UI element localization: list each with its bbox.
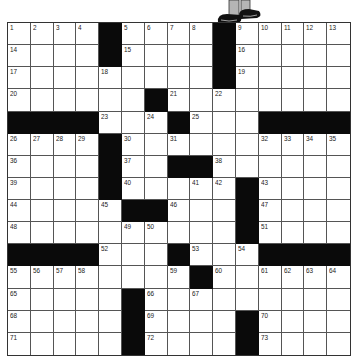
crossword-cell[interactable] [122, 112, 145, 134]
crossword-cell[interactable] [259, 156, 282, 178]
crossword-cell[interactable]: 35 [327, 134, 350, 156]
crossword-cell[interactable] [236, 289, 259, 311]
crossword-cell[interactable] [190, 45, 213, 67]
crossword-cell[interactable]: 47 [259, 200, 282, 222]
crossword-cell[interactable] [76, 156, 99, 178]
crossword-cell[interactable]: 34 [304, 134, 327, 156]
crossword-cell[interactable] [190, 222, 213, 244]
crossword-cell[interactable] [213, 112, 236, 134]
crossword-cell[interactable] [31, 67, 54, 89]
crossword-cell[interactable]: 5 [122, 23, 145, 45]
crossword-cell[interactable] [304, 156, 327, 178]
crossword-cell[interactable]: 22 [213, 89, 236, 111]
crossword-cell[interactable] [31, 156, 54, 178]
crossword-cell[interactable] [327, 156, 350, 178]
crossword-cell[interactable] [236, 112, 259, 134]
crossword-cell[interactable] [76, 45, 99, 67]
crossword-cell[interactable] [282, 311, 305, 333]
crossword-cell[interactable] [282, 222, 305, 244]
crossword-cell[interactable] [145, 156, 168, 178]
crossword-cell[interactable]: 6 [145, 23, 168, 45]
crossword-cell[interactable]: 71 [8, 333, 31, 355]
crossword-cell[interactable]: 69 [145, 311, 168, 333]
crossword-cell[interactable]: 50 [145, 222, 168, 244]
crossword-cell[interactable] [145, 134, 168, 156]
crossword-cell[interactable] [304, 45, 327, 67]
crossword-cell[interactable]: 46 [168, 200, 191, 222]
crossword-cell[interactable] [304, 67, 327, 89]
crossword-cell[interactable] [259, 89, 282, 111]
crossword-cell[interactable] [54, 333, 77, 355]
crossword-cell[interactable] [190, 311, 213, 333]
crossword-cell[interactable] [168, 333, 191, 355]
crossword-cell[interactable]: 66 [145, 289, 168, 311]
crossword-cell[interactable] [31, 333, 54, 355]
crossword-cell[interactable] [168, 67, 191, 89]
crossword-cell[interactable] [327, 178, 350, 200]
crossword-cell[interactable] [99, 89, 122, 111]
crossword-cell[interactable]: 7 [168, 23, 191, 45]
crossword-cell[interactable]: 48 [8, 222, 31, 244]
crossword-cell[interactable]: 39 [8, 178, 31, 200]
crossword-cell[interactable] [282, 45, 305, 67]
crossword-cell[interactable] [190, 333, 213, 355]
crossword-cell[interactable]: 41 [190, 178, 213, 200]
crossword-cell[interactable] [54, 178, 77, 200]
crossword-cell[interactable] [31, 178, 54, 200]
crossword-cell[interactable] [236, 89, 259, 111]
crossword-cell[interactable]: 73 [259, 333, 282, 355]
crossword-cell[interactable] [282, 333, 305, 355]
crossword-cell[interactable]: 13 [327, 23, 350, 45]
crossword-cell[interactable] [122, 89, 145, 111]
crossword-cell[interactable] [259, 67, 282, 89]
crossword-cell[interactable]: 55 [8, 266, 31, 288]
crossword-cell[interactable]: 42 [213, 178, 236, 200]
crossword-cell[interactable] [282, 178, 305, 200]
crossword-cell[interactable] [145, 266, 168, 288]
crossword-cell[interactable] [236, 156, 259, 178]
crossword-cell[interactable]: 14 [8, 45, 31, 67]
crossword-cell[interactable] [213, 289, 236, 311]
crossword-cell[interactable] [54, 89, 77, 111]
crossword-cell[interactable]: 11 [282, 23, 305, 45]
crossword-cell[interactable]: 8 [190, 23, 213, 45]
crossword-cell[interactable] [213, 222, 236, 244]
crossword-cell[interactable] [122, 244, 145, 266]
crossword-cell[interactable]: 64 [327, 266, 350, 288]
crossword-cell[interactable]: 20 [8, 89, 31, 111]
crossword-cell[interactable]: 29 [76, 134, 99, 156]
crossword-cell[interactable] [259, 289, 282, 311]
crossword-cell[interactable] [304, 200, 327, 222]
crossword-cell[interactable] [54, 45, 77, 67]
crossword-cell[interactable]: 44 [8, 200, 31, 222]
crossword-cell[interactable]: 53 [190, 244, 213, 266]
crossword-cell[interactable] [327, 289, 350, 311]
crossword-cell[interactable] [31, 289, 54, 311]
crossword-cell[interactable] [327, 89, 350, 111]
crossword-cell[interactable] [168, 289, 191, 311]
crossword-cell[interactable] [122, 67, 145, 89]
crossword-cell[interactable] [282, 200, 305, 222]
crossword-cell[interactable]: 17 [8, 67, 31, 89]
crossword-cell[interactable]: 16 [236, 45, 259, 67]
crossword-cell[interactable] [54, 289, 77, 311]
crossword-cell[interactable]: 51 [259, 222, 282, 244]
crossword-cell[interactable] [213, 333, 236, 355]
crossword-cell[interactable] [145, 178, 168, 200]
crossword-cell[interactable]: 65 [8, 289, 31, 311]
crossword-cell[interactable]: 2 [31, 23, 54, 45]
crossword-cell[interactable]: 10 [259, 23, 282, 45]
crossword-cell[interactable] [31, 200, 54, 222]
crossword-cell[interactable]: 3 [54, 23, 77, 45]
crossword-cell[interactable]: 15 [122, 45, 145, 67]
crossword-cell[interactable]: 1 [8, 23, 31, 45]
crossword-cell[interactable] [168, 178, 191, 200]
crossword-cell[interactable] [76, 200, 99, 222]
crossword-cell[interactable] [145, 67, 168, 89]
crossword-cell[interactable]: 67 [190, 289, 213, 311]
crossword-cell[interactable]: 70 [259, 311, 282, 333]
crossword-cell[interactable] [122, 266, 145, 288]
crossword-cell[interactable]: 72 [145, 333, 168, 355]
crossword-cell[interactable] [168, 45, 191, 67]
crossword-cell[interactable] [54, 222, 77, 244]
